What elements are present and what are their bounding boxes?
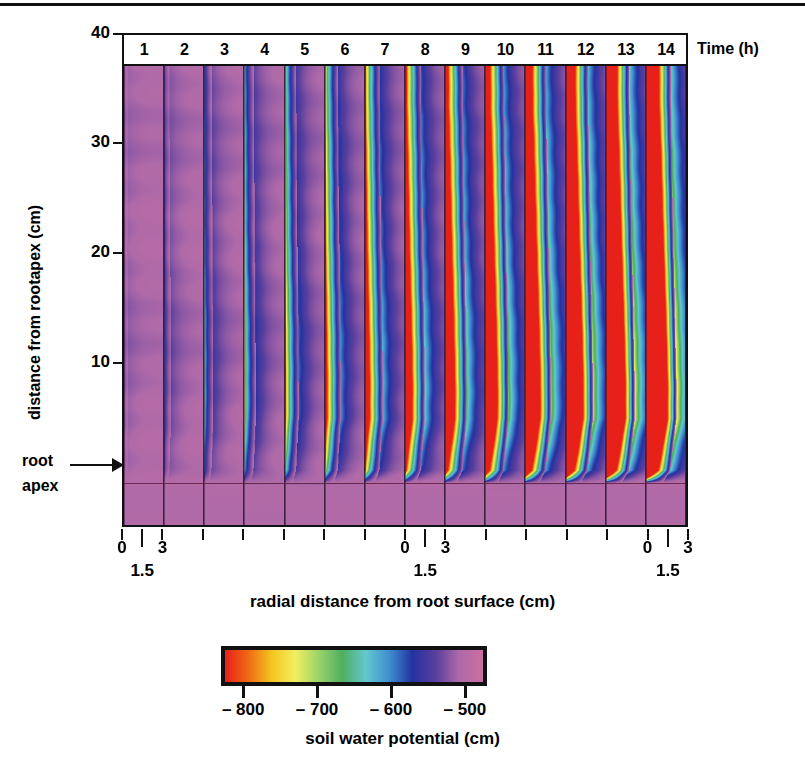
x-tick-label-1p5-2: 1.5 bbox=[643, 561, 693, 581]
heatmap-canvas-6 bbox=[325, 66, 364, 525]
root-apex-arrow-icon bbox=[70, 464, 122, 466]
heatmap-canvas-4 bbox=[244, 66, 283, 525]
y-tick-label-20: 20 bbox=[66, 242, 110, 262]
colorbar-tick--700 bbox=[316, 686, 319, 698]
heatmap-canvas-9 bbox=[445, 66, 484, 525]
root-surface-line-9 bbox=[445, 66, 446, 525]
x-tick-boundary-5 bbox=[323, 529, 325, 540]
heatmap-canvas-10 bbox=[485, 66, 524, 525]
time-header-4: 4 bbox=[244, 35, 284, 64]
y-tick-label-40: 40 bbox=[66, 23, 110, 43]
heatmap-canvas-14 bbox=[646, 66, 685, 525]
time-panel-8 bbox=[405, 66, 445, 525]
root-surface-line-3 bbox=[204, 66, 205, 525]
time-panel-11 bbox=[525, 66, 565, 525]
root-surface-line-4 bbox=[244, 66, 245, 525]
time-header-1: 1 bbox=[124, 35, 164, 64]
heatmap-canvas-1 bbox=[124, 66, 163, 525]
y-tick-40 bbox=[113, 33, 122, 35]
time-header-8: 8 bbox=[405, 35, 445, 64]
time-header-13: 13 bbox=[606, 35, 646, 64]
time-panel-13 bbox=[606, 66, 646, 525]
time-header-14: 14 bbox=[646, 35, 686, 64]
colorbar bbox=[221, 646, 487, 686]
time-panel-7 bbox=[365, 66, 405, 525]
root-surface-line-13 bbox=[606, 66, 607, 525]
x-tick-boundary-2 bbox=[202, 529, 204, 540]
root-surface-line-10 bbox=[485, 66, 486, 525]
root-surface-line-14 bbox=[646, 66, 647, 525]
time-panel-14 bbox=[646, 66, 686, 525]
x-tick-label-3-0: 3 bbox=[142, 538, 182, 558]
heatmap-canvas-12 bbox=[566, 66, 605, 525]
root-apex-label-line2: apex bbox=[22, 477, 58, 495]
colorbar-gradient bbox=[225, 650, 483, 682]
time-header-10: 10 bbox=[485, 35, 525, 64]
x-tick-label-3-2: 3 bbox=[668, 538, 708, 558]
root-surface-line-5 bbox=[285, 66, 286, 525]
x-tick-label-1p5-1: 1.5 bbox=[400, 561, 450, 581]
root-surface-line-6 bbox=[325, 66, 326, 525]
panel-strip bbox=[124, 66, 686, 525]
time-header-11: 11 bbox=[525, 35, 565, 64]
x-tick-boundary-3 bbox=[242, 529, 244, 540]
colorbar-tick-label--500: – 500 bbox=[420, 700, 510, 720]
y-tick-10 bbox=[113, 362, 122, 364]
y-axis-title: distance from rootapex (cm) bbox=[26, 205, 44, 420]
root-surface-line-1 bbox=[124, 66, 125, 525]
time-panel-4 bbox=[244, 66, 284, 525]
heatmap-canvas-3 bbox=[204, 66, 243, 525]
heatmap-canvas-11 bbox=[525, 66, 564, 525]
root-surface-line-11 bbox=[525, 66, 526, 525]
plot-frame: 1234567891011121314 bbox=[122, 33, 688, 527]
heatmap-canvas-8 bbox=[405, 66, 444, 525]
heatmap-canvas-13 bbox=[606, 66, 645, 525]
colorbar-tick--800 bbox=[242, 686, 245, 698]
heatmap-canvas-2 bbox=[164, 66, 203, 525]
time-header-12: 12 bbox=[566, 35, 606, 64]
x-axis-title: radial distance from root surface (cm) bbox=[0, 592, 805, 612]
root-surface-line-12 bbox=[566, 66, 567, 525]
y-tick-label-30: 30 bbox=[66, 132, 110, 152]
time-panel-5 bbox=[285, 66, 325, 525]
time-panel-9 bbox=[445, 66, 485, 525]
colorbar-tick--600 bbox=[390, 686, 393, 698]
x-tick-label-0-2: 0 bbox=[628, 538, 668, 558]
x-tick-boundary-6 bbox=[364, 529, 366, 540]
time-panel-3 bbox=[204, 66, 244, 525]
time-panel-6 bbox=[325, 66, 365, 525]
x-tick-label-3-1: 3 bbox=[425, 538, 465, 558]
time-panel-12 bbox=[566, 66, 606, 525]
time-panel-10 bbox=[485, 66, 525, 525]
time-panel-1 bbox=[124, 66, 164, 525]
time-header-9: 9 bbox=[445, 35, 485, 64]
y-tick-20 bbox=[113, 252, 122, 254]
x-tick-boundary-10 bbox=[525, 529, 527, 540]
y-tick-label-10: 10 bbox=[66, 352, 110, 372]
time-header-band: 1234567891011121314 bbox=[124, 35, 686, 66]
time-panel-2 bbox=[164, 66, 204, 525]
x-tick-boundary-12 bbox=[606, 529, 608, 540]
root-surface-line-8 bbox=[405, 66, 406, 525]
figure-root: distance from rootapex (cm) 40 30 20 10 … bbox=[0, 0, 805, 778]
time-header-3: 3 bbox=[204, 35, 244, 64]
heatmap-canvas-5 bbox=[285, 66, 324, 525]
x-tick-label-0-1: 0 bbox=[385, 538, 425, 558]
x-tick-boundary-4 bbox=[283, 529, 285, 540]
x-tick-boundary-11 bbox=[566, 529, 568, 540]
root-surface-line-7 bbox=[365, 66, 366, 525]
top-rule bbox=[0, 3, 805, 6]
time-header-7: 7 bbox=[365, 35, 405, 64]
x-tick-label-0-0: 0 bbox=[102, 538, 142, 558]
x-tick-label-1p5-0: 1.5 bbox=[117, 561, 167, 581]
heatmap-canvas-7 bbox=[365, 66, 404, 525]
time-header-5: 5 bbox=[285, 35, 325, 64]
root-apex-label-line1: root bbox=[22, 452, 53, 470]
time-header-6: 6 bbox=[325, 35, 365, 64]
panel-axis-label: Time (h) bbox=[697, 40, 759, 58]
colorbar-tick--500 bbox=[464, 686, 467, 698]
time-header-2: 2 bbox=[164, 35, 204, 64]
y-tick-30 bbox=[113, 142, 122, 144]
x-tick-boundary-9 bbox=[485, 529, 487, 540]
colorbar-title: soil water potential (cm) bbox=[0, 729, 805, 749]
